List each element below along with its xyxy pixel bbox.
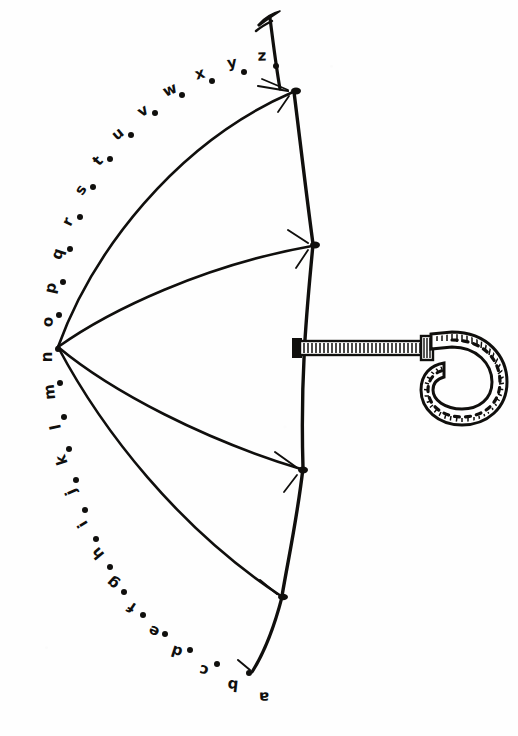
alphabet-dot — [60, 279, 66, 285]
alphabet-dot — [61, 414, 67, 420]
alphabet-dot — [209, 78, 215, 84]
alphabet-dot — [93, 536, 99, 542]
alphabet-dot — [90, 184, 96, 190]
crook-handle-body — [421, 332, 507, 425]
alphabet-letter: a — [259, 689, 270, 704]
alphabet-dot — [214, 661, 220, 667]
rib-tip-ferrules-group — [238, 79, 320, 670]
alphabet-dot — [187, 647, 193, 653]
alphabet-dot — [82, 507, 88, 513]
alphabet-letter: o — [40, 316, 56, 328]
alphabet-dot — [152, 110, 158, 116]
alphabet-dot — [121, 589, 127, 595]
alphabet-letter: m — [42, 383, 59, 400]
alphabet-dot — [73, 477, 79, 483]
alphabet-dot — [67, 246, 73, 252]
umbrella-line-drawing — [0, 0, 518, 736]
crook-handle-group — [421, 331, 507, 425]
drawing-page: abcdefghijklmnopqrstuvwxyz — [0, 0, 518, 736]
alphabet-dot — [140, 612, 146, 618]
canopy-scallop-upper-mid — [58, 246, 312, 347]
alphabet-dot — [246, 670, 252, 676]
alphabet-dot — [107, 156, 113, 162]
alphabet-letter: b — [227, 677, 239, 693]
alphabet-dot — [128, 132, 134, 138]
alphabet-letter: n — [40, 352, 55, 363]
shaft-group — [292, 336, 433, 360]
canopy-group — [58, 11, 313, 672]
alphabet-dot — [273, 63, 279, 69]
alphabet-dot — [55, 346, 61, 352]
alphabet-dot — [179, 92, 185, 98]
alphabet-letter: y — [226, 55, 238, 71]
alphabet-letter: z — [257, 48, 266, 63]
alphabet-dot — [162, 631, 168, 637]
shaft-rod — [300, 341, 426, 355]
canopy-lower-stem — [252, 597, 282, 672]
alphabet-dot — [107, 564, 113, 570]
alphabet-dot — [66, 446, 72, 452]
alphabet-dot — [77, 214, 83, 220]
canopy-scallop-top — [58, 92, 293, 347]
stem-end-ferrule — [238, 660, 250, 670]
alphabet-dot — [241, 69, 247, 75]
